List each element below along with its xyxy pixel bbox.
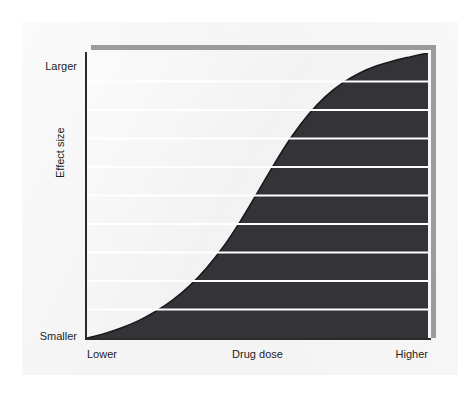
frame-top-bar — [91, 45, 436, 50]
y-axis-tick-larger: Larger — [45, 60, 77, 73]
y-axis-tick-smaller: Smaller — [40, 330, 77, 343]
x-axis-tick-higher: Higher — [87, 348, 428, 361]
frame-right-bar — [431, 45, 436, 338]
y-axis-line — [85, 52, 87, 340]
y-axis-label: Effect size — [54, 127, 67, 178]
dose-response-plot — [87, 53, 428, 338]
chart-figure: Larger Smaller Effect size Lower Drug do… — [0, 0, 473, 393]
x-axis-line — [85, 338, 431, 340]
plot-area — [87, 53, 428, 338]
